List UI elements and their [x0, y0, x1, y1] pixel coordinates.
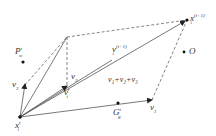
point-x-it	[18, 115, 22, 119]
label-sup: (t+1)	[194, 13, 205, 18]
label-sub: i	[113, 51, 114, 56]
label-sub: i	[191, 20, 192, 25]
label-sub: g	[118, 114, 121, 119]
label-v2: v2	[12, 80, 19, 91]
dashed-apex-to-xt1	[67, 20, 187, 37]
label-o: O	[189, 47, 196, 56]
label-v3: v3	[71, 72, 78, 83]
solid-lines	[20, 21, 185, 117]
label-v1: v1	[150, 103, 157, 114]
point-o	[183, 51, 186, 54]
label-sub: i	[66, 94, 67, 99]
dashed-lines	[25, 20, 187, 100]
label-g-gt: Gtg	[113, 107, 120, 119]
label-sup: t	[21, 46, 22, 51]
label-base: O	[189, 46, 196, 56]
point-x-it1	[185, 18, 188, 21]
label-sup: t	[19, 120, 20, 125]
label-sup: t	[120, 107, 121, 112]
label-sub: 1	[154, 109, 157, 114]
label-sup: t	[68, 87, 69, 92]
label-sup: (t+1)	[116, 44, 127, 49]
label-text: v₁+v₂+v₃	[108, 75, 138, 84]
label-p-wt: Ptw	[15, 46, 22, 58]
label-x-it1: x(t+1)i	[190, 13, 192, 25]
line-v1	[20, 100, 152, 117]
diagram-canvas	[0, 0, 216, 136]
line-v-it1	[20, 21, 185, 117]
label-sub: w	[19, 53, 22, 58]
dashed-p-to-apex	[25, 37, 67, 85]
label-x-it: xti	[15, 120, 19, 132]
point-p-wt	[21, 60, 24, 63]
point-g-gt	[116, 101, 119, 104]
label-v-it: vti	[64, 87, 68, 99]
label-sum: v₁+v₂+v₃	[108, 76, 138, 84]
dashed-v1-to-xt1	[152, 20, 187, 100]
label-sub: 2	[16, 86, 19, 91]
label-v-it1: v(t+1)i	[112, 44, 114, 56]
line-v3	[20, 86, 67, 117]
label-sub: i	[17, 127, 18, 132]
label-sub: 3	[75, 78, 78, 83]
line-to-apex	[20, 37, 67, 117]
